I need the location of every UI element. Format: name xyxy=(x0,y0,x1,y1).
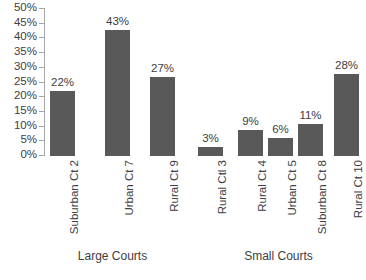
y-axis-tick-label: 30% xyxy=(1,61,37,72)
bar-value-label: 6% xyxy=(272,123,289,135)
bar-chart: 0%5%10%15%20%25%30%35%40%45%50% 22%43%27… xyxy=(0,0,366,280)
y-axis-tick xyxy=(39,96,44,97)
y-axis-tick xyxy=(39,140,44,141)
y-axis-tick-label: 35% xyxy=(1,46,37,57)
bar: 6% xyxy=(268,9,293,156)
bar-rect xyxy=(105,30,130,156)
bar-value-label: 43% xyxy=(106,15,129,27)
y-axis-tick-label: 25% xyxy=(1,76,37,87)
y-axis-tick-label: 5% xyxy=(1,134,37,145)
y-axis-tick xyxy=(39,23,44,24)
bar-value-label: 27% xyxy=(151,62,174,74)
y-axis-tick-label: 50% xyxy=(1,2,37,13)
y-axis-tick xyxy=(39,155,44,156)
y-axis-tick-label: 40% xyxy=(1,31,37,42)
category-label: Suburban Ct 2 xyxy=(68,160,80,234)
plot-area: 22%43%27%3%9%6%11%28% xyxy=(45,8,363,156)
bar: 28% xyxy=(334,9,359,156)
bar-rect xyxy=(198,147,223,156)
bar-value-label: 11% xyxy=(299,109,321,121)
bar: 11% xyxy=(298,9,323,156)
bar-value-label: 22% xyxy=(51,76,74,88)
category-label: Suburban Ct 8 xyxy=(316,160,328,234)
bar: 43% xyxy=(105,9,130,156)
category-label: Urban Ct 5 xyxy=(286,160,298,216)
y-axis-tick xyxy=(39,52,44,53)
bar-value-label: 9% xyxy=(242,115,259,127)
y-axis-tick-label: 45% xyxy=(1,17,37,28)
bar: 9% xyxy=(238,9,263,156)
category-label: Rural Ct 4 xyxy=(256,160,268,212)
bar-rect xyxy=(150,77,175,156)
y-axis-tick xyxy=(39,67,44,68)
bar-rect xyxy=(50,91,75,156)
category-label: Rural Ct 9 xyxy=(168,160,180,212)
y-axis-tick xyxy=(39,37,44,38)
y-axis-tick xyxy=(39,126,44,127)
bar-value-label: 3% xyxy=(202,132,219,144)
y-axis-tick-label: 15% xyxy=(1,105,37,116)
y-axis-tick-labels: 0%5%10%15%20%25%30%35%40%45%50% xyxy=(0,0,37,280)
category-label: Urban Ct 7 xyxy=(123,160,135,216)
group-label: Large Courts xyxy=(43,249,183,263)
y-axis-tick-label: 10% xyxy=(1,120,37,131)
y-axis-tick-label: 20% xyxy=(1,90,37,101)
category-label: Rural Ctl 3 xyxy=(216,160,228,214)
bar: 3% xyxy=(198,9,223,156)
category-label: Rural Ct 10 xyxy=(352,160,364,218)
group-label: Small Courts xyxy=(209,249,349,263)
bar-rect xyxy=(298,124,323,156)
bar-rect xyxy=(334,74,359,156)
bar-rect xyxy=(238,130,263,156)
bar: 22% xyxy=(50,9,75,156)
bar: 27% xyxy=(150,9,175,156)
y-axis-tick-label: 0% xyxy=(1,149,37,160)
bar-value-label: 28% xyxy=(335,59,358,71)
y-axis-tick xyxy=(39,8,44,9)
y-axis-tick xyxy=(39,82,44,83)
bar-rect xyxy=(268,138,293,156)
y-axis-tick xyxy=(39,111,44,112)
